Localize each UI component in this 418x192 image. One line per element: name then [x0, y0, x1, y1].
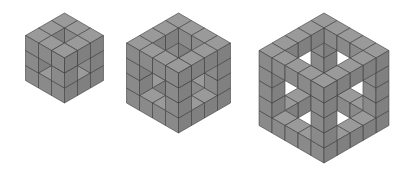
- cube-5x5-hollow: [259, 13, 389, 163]
- cube-4x4-hollow: [127, 13, 231, 133]
- cube-3x3-hollow: [26, 13, 104, 103]
- hollow-cubes-figure: [0, 0, 418, 192]
